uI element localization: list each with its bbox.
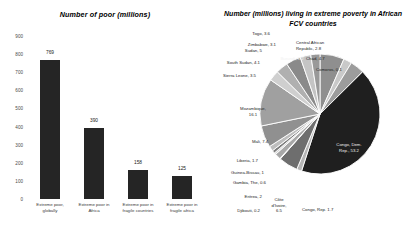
pie-label-guinea-bissau: Guinea-Bissau, 1 [206,170,264,176]
y-tick-600: 600 [15,88,23,93]
pie-chart-title: Number (millions) living in extreme pove… [212,9,414,29]
pie-label-liberia: Liberia, 1.7 [206,158,258,164]
bar-category-label: Extreme poor, globally [27,202,73,214]
pie-label-central-african-republic: Central African Republic, 2.8 [296,40,358,51]
pie-label-south-sudan: South Sudan, 4.1 [206,60,260,66]
y-tick-0: 0 [20,197,23,202]
pie-label-cote-divoire: Côte d'Ivoire, 6.5 [264,197,294,214]
pie-label-mali: Mali, 7.4 [242,139,278,145]
y-tick-800: 800 [15,52,23,57]
bar-category-line: fragile countries [115,208,161,214]
bar-category-label: Extreme poor in Africa [71,202,117,214]
chart-page: Number of poor (millions) 900 800 700 60… [0,0,420,239]
bar-category-label: Extreme poor in fragile africa [159,202,205,214]
pie-label-djibouti: Djibouti, 0.2 [206,208,260,214]
pie-title-line-1: Number (millions) living in extreme pove… [212,9,414,19]
y-tick-900: 900 [15,34,23,39]
y-tick-700: 700 [15,70,23,75]
pie-title-line-2: FCV countries [212,19,414,29]
bar-category-label: Extreme poor in fragile countries [115,202,161,214]
pie-chart-panel: Number (millions) living in extreme pove… [206,0,420,239]
y-tick-100: 100 [15,178,23,183]
bar-chart-panel: Number of poor (millions) 900 800 700 60… [0,0,210,239]
bar-extreme-poor-fragile-africa[interactable] [172,176,192,199]
pie-label-togo: Togo, 3.6 [208,31,270,37]
bar-category-line: fragile africa [159,208,205,214]
bar-category-line: globally [27,208,73,214]
pie-label-eritrea: Eritrea, 2 [206,194,262,200]
pie-label-sierra-leone: Sierra Leone, 3.5 [206,73,256,79]
bar-chart-title: Number of poor (millions) [0,10,210,19]
pie-label-mozambique: Mozambique, 16.1 [230,106,276,117]
pie-label-burundi: Burundi, 8.2 [272,56,312,62]
bar-value-label: 769 [46,50,54,55]
bar-plot-area: 900 800 700 600 500 400 300 200 100 0 76… [26,36,196,199]
bar-value-label: 125 [178,166,186,171]
bar-value-label: 390 [90,118,98,123]
pie-label-zimbabwe: Zimbabwe, 3.1 [212,42,276,48]
bar-value-label: 158 [134,160,142,165]
y-tick-200: 200 [15,160,23,165]
pie-label-comoros: Comoros, 0.1 [316,67,368,73]
pie-label-congo-dem-rep: Congo, Dem. Rep., 53.2 [326,142,372,153]
pie-label-gambia: Gambia, The, 0.6 [206,180,266,186]
bar-category-line: Africa [71,208,117,214]
y-tick-400: 400 [15,124,23,129]
bar-extreme-poor-globally[interactable] [40,60,60,199]
bar-extreme-poor-africa[interactable] [84,128,104,199]
y-tick-500: 500 [15,106,23,111]
pie-label-chad: Chad, 4.7 [306,56,356,62]
pie-label-sudan: Sudan, 5 [208,48,262,54]
y-tick-300: 300 [15,142,23,147]
bar-extreme-poor-fragile-countries[interactable] [128,170,148,199]
pie-label-congo-rep: Congo, Rep. 1.7 [302,207,372,213]
